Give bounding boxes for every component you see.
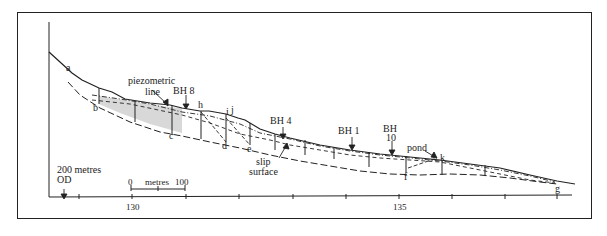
pond-label: pond [407, 142, 427, 153]
piezometric-label-line2: line [145, 86, 161, 97]
bh8-label: BH 8 [173, 85, 194, 96]
label-f: f [404, 171, 408, 182]
datum-label-line2: OD [57, 174, 71, 185]
horizontal-axis [49, 195, 572, 197]
label-i: i [226, 106, 229, 117]
label-g: g [555, 183, 560, 194]
label-b: b [93, 102, 98, 113]
label-d: d [222, 140, 227, 151]
bh1-label: BH 1 [338, 125, 359, 136]
slice-lines [99, 88, 485, 176]
label-k: k [440, 152, 445, 163]
bh10-label-line2: 10 [386, 132, 396, 143]
piezometric-label-line1: piezometric [128, 75, 176, 86]
scale-start: 0 [128, 177, 133, 187]
cross-section-diagram: a b c d e f g h i j k piezometric line B… [0, 0, 607, 236]
slip-label-line2: surface [249, 166, 278, 177]
label-h: h [198, 99, 203, 110]
label-c: c [169, 130, 174, 141]
scale-unit: metres [145, 177, 169, 187]
label-j: j [230, 104, 234, 115]
label-a: a [66, 62, 71, 73]
label-e: e [247, 143, 252, 154]
scale-end: 100 [175, 177, 189, 187]
ground-surface-line [49, 52, 575, 184]
bh4-label: BH 4 [270, 115, 291, 126]
tick-label-130: 130 [126, 202, 140, 212]
tick-label-135: 135 [393, 202, 407, 212]
slip-surface [68, 82, 557, 184]
